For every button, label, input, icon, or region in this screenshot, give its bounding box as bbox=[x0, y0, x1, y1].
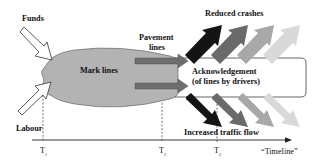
funds-arrow bbox=[20, 27, 52, 60]
tick-t1: T1 bbox=[40, 147, 47, 157]
traffic-flow-arrows bbox=[186, 93, 300, 127]
labour-arrow bbox=[18, 82, 51, 115]
acknowledgement-label-line2: (of lines by drivers) bbox=[192, 78, 260, 86]
diagram-canvas bbox=[0, 0, 322, 167]
labour-label: Labour bbox=[16, 125, 42, 133]
tick-t2: T2 bbox=[159, 147, 166, 157]
pavement-lines-label-line1: Pavement bbox=[139, 34, 174, 42]
reduced-crashes-label: Reduced crashes bbox=[205, 10, 263, 18]
increased-traffic-flow-label: Increased traffic flow bbox=[184, 129, 259, 137]
mark-lines-label: Mark lines bbox=[80, 67, 118, 75]
pavement-lines-label-line2: lines bbox=[149, 44, 165, 52]
timeline-label: “Timeline” bbox=[261, 148, 298, 156]
funds-label: Funds bbox=[22, 15, 44, 23]
mark-lines-ellipse bbox=[42, 48, 178, 107]
tick-t3: T3 bbox=[214, 147, 221, 157]
acknowledgement-label-line1: Acknowledgement bbox=[192, 68, 257, 76]
